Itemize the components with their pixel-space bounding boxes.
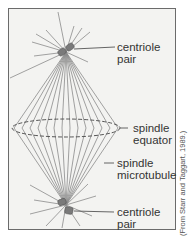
- spindle-diagram: [0, 0, 195, 240]
- label-line-2: microtubule: [117, 169, 176, 181]
- label-line-1: spindle: [133, 122, 172, 134]
- astral-rays-bottom: [30, 184, 96, 228]
- spindle-equator-ellipse: [12, 119, 120, 137]
- label-top-centriole-pair: centriole pair: [117, 41, 160, 65]
- label-bottom-centriole-pair: centriole pair: [117, 206, 160, 230]
- label-line-2: pair: [117, 53, 160, 65]
- label-spindle-equator: spindle equator: [133, 122, 172, 146]
- label-line-1: centriole: [117, 41, 160, 53]
- label-line-1: spindle: [117, 157, 176, 169]
- astral-rays-top: [10, 12, 90, 78]
- source-citation: (From Starr and Taggart, 1989.): [178, 131, 187, 236]
- label-line-2: equator: [133, 134, 172, 146]
- label-line-1: centriole: [117, 206, 160, 218]
- label-spindle-microtubule: spindle microtubule: [117, 157, 176, 181]
- spindle-fibers: [14, 52, 118, 205]
- label-line-2: pair: [117, 218, 160, 230]
